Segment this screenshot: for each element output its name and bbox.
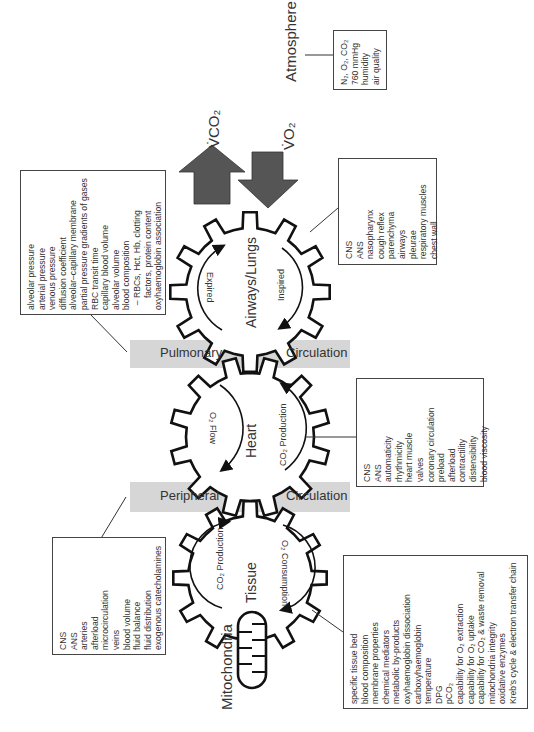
airway-item: CNS <box>344 185 355 260</box>
pulmonary-label: Pulmonary <box>160 345 222 360</box>
atmosphere-item: air quality <box>371 40 382 85</box>
tissue-label: Tissue <box>243 562 259 603</box>
heart-item: blood viscosity <box>479 407 490 482</box>
peripheral-factors-box: CNS ANS arteries afterload microcirculat… <box>52 537 166 655</box>
airway-item: pleurae <box>408 185 419 260</box>
heart-item: preload <box>436 407 447 482</box>
airway-item: respiratory muscles <box>418 185 429 260</box>
tissue-connector <box>312 610 343 632</box>
airway-item: cough reflex <box>376 185 387 260</box>
tissue-item: carboxyhaemoglobin <box>413 562 424 704</box>
peripheral-item: exogenous catecholamines <box>153 546 164 650</box>
tissue-item: specific tissue bed <box>349 562 360 704</box>
airway-item: airways <box>397 185 408 260</box>
lung-gas-item: oxyhaemoglobin association <box>153 178 164 310</box>
heart-item: coronary circulation <box>426 407 437 482</box>
heart-item: rhythmicity <box>394 407 405 482</box>
tissue-item: metabolic by-products <box>391 562 402 704</box>
o2-consumption-label: O₂ Consumption <box>280 540 290 606</box>
tissue-item: temperature <box>423 562 434 704</box>
atmosphere-box: N₂, O₂, CO₂ 760 mmHg humidity air qualit… <box>333 30 387 90</box>
lung-gas-item: alveolar–capillary membrane <box>68 178 79 310</box>
airway-item: nasopharynx <box>365 185 376 260</box>
lung-gas-item: arterial pressure <box>37 178 48 310</box>
heart-item: heart muscle <box>404 407 415 482</box>
vo2-label: V̇O₂ <box>280 123 297 151</box>
vco2-label: V̇CO₂ <box>205 110 222 148</box>
heart-item: afterload <box>447 407 458 482</box>
mitochondria-icon <box>238 612 266 688</box>
peripheral-item: afterload <box>90 546 101 650</box>
peripheral-item: veins <box>111 546 122 650</box>
lung-gas-exchange-box: alveolar pressure arterial pressure veno… <box>20 170 166 315</box>
heart-item: contractility <box>457 407 468 482</box>
lung-gas-item: blood composition <box>121 178 132 310</box>
tissue-item: oxyhaemoglobin dissociation <box>402 562 413 704</box>
peripheral-item: fluid balance <box>132 546 143 650</box>
heart-item: automaticity <box>383 407 394 482</box>
heart-item: distensibility <box>468 407 479 482</box>
peripheral-item: CNS <box>58 546 69 650</box>
peripheral-item: ANS <box>69 546 80 650</box>
peripheral-connector <box>100 497 126 540</box>
tissue-item: pCO₂ <box>444 562 455 704</box>
tissue-co2-production-label: CO₂ Production <box>215 527 225 590</box>
peripheral-label: Peripheral <box>160 488 219 503</box>
lung-gas-item: capillary blood volume <box>100 178 111 310</box>
tissue-item: capability for O₂ extraction <box>455 562 466 704</box>
tissue-item: capability for O₂ uptake <box>466 562 477 704</box>
tissue-factors-box: specific tissue bed blood composition me… <box>343 555 528 709</box>
lung-gas-connector <box>90 314 127 352</box>
vo2-down-arrow-icon <box>238 152 298 208</box>
airway-factors-box: CNS ANS nasopharynx cough reflex parench… <box>338 158 437 265</box>
heart-co2-production-label: CO₂ Production <box>278 403 288 466</box>
peripheral-item: microcirculation <box>100 546 111 650</box>
heart-item: ANS <box>373 407 384 482</box>
heart-label: Heart <box>243 424 259 458</box>
tissue-item: capability for CO₂ & waste removal <box>476 562 487 704</box>
airway-connector <box>310 208 338 232</box>
lung-gas-item: diffusion coefficient <box>58 178 69 310</box>
tissue-item: Kreb's cycle & electron transfer chain <box>508 562 519 704</box>
atmosphere-item: 760 mmHg <box>350 40 361 85</box>
lung-gas-item: alveolar pressure <box>26 178 37 310</box>
tissue-item: membrane properties <box>370 562 381 704</box>
peripheral-circulation-label: Circulation <box>286 488 347 503</box>
tissue-item: chemical mediators <box>381 562 392 704</box>
vco2-up-arrow-icon <box>179 145 245 204</box>
atmosphere-label: Atmosphere <box>282 1 299 82</box>
tissue-item: oxidative enzymes <box>497 562 508 704</box>
heart-item: CNS <box>362 407 373 482</box>
airway-item: ANS <box>355 185 366 260</box>
heart-item: valves <box>415 407 426 482</box>
peripheral-item: blood volume <box>122 546 133 650</box>
o2-flow-label: O₂ Flow <box>208 412 218 444</box>
lung-gas-item: – RBCs, Hct, Hb, clotting <box>132 178 143 310</box>
atmosphere-item: N₂, O₂, CO₂ <box>339 40 350 85</box>
peripheral-item: fluid distribution <box>143 546 154 650</box>
lung-gas-item: factors, protein content <box>143 178 154 310</box>
lung-gas-item: alveolar volume <box>111 178 122 310</box>
airway-item: chest wall <box>429 185 440 260</box>
expired-label: Expired <box>205 272 215 303</box>
atmosphere-item: humidity <box>360 40 371 85</box>
tissue-item: DPG <box>434 562 445 704</box>
peripheral-item: arteries <box>79 546 90 650</box>
lung-gas-item: venous pressure <box>47 178 58 310</box>
lung-gas-item: partial pressure gradients of gases <box>79 178 90 310</box>
lung-gas-item: RBC transit time <box>90 178 101 310</box>
tissue-item: blood composition <box>360 562 371 704</box>
airway-item: parenchyma <box>386 185 397 260</box>
inspired-label: Inspired <box>276 269 286 301</box>
mitochondria-label: Mitochondria <box>218 624 235 710</box>
heart-factors-box: CNS ANS automaticity rhythmicity heart m… <box>356 378 484 487</box>
airways-lungs-label: Airways/Lungs <box>243 237 259 328</box>
tissue-item: mitochondria integrity <box>487 562 498 704</box>
pulmonary-circulation-label: Circulation <box>286 345 347 360</box>
